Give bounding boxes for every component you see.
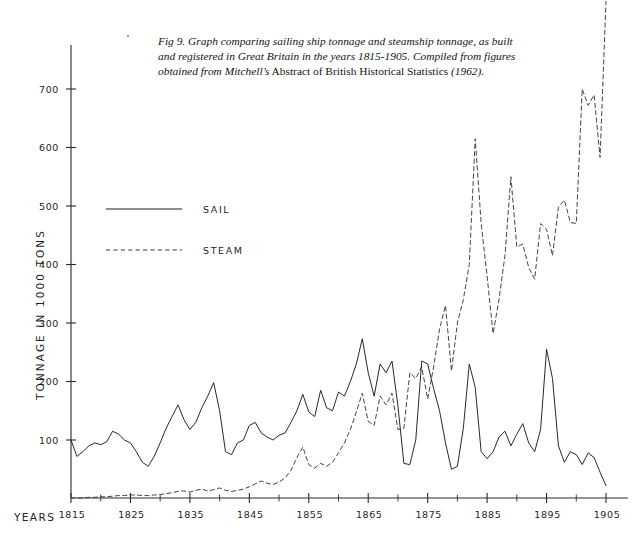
y-tick-label-700: 700 xyxy=(39,84,59,95)
y-axis-title: TONNAGE IN 1000 TONS xyxy=(34,229,46,401)
chart-legend: SAIL STEAM xyxy=(106,204,244,256)
x-tick-label-1895: 1895 xyxy=(534,509,561,520)
series-line-sail xyxy=(71,339,606,486)
y-tick-label-500: 500 xyxy=(39,201,59,212)
x-tick-label-1835: 1835 xyxy=(178,509,205,520)
chart-plot-area: 100200300400500600700 181518251835184518… xyxy=(0,0,637,546)
x-tick-label-1885: 1885 xyxy=(475,509,502,520)
figure-container: Fig 9. Graph comparing sailing ship tonn… xyxy=(0,0,637,546)
x-tick-label-1905: 1905 xyxy=(594,509,621,520)
x-tick-label-1815: 1815 xyxy=(59,509,86,520)
x-tick-label-1875: 1875 xyxy=(415,509,442,520)
x-axis-tick-labels: 1815182518351845185518651875188518951905 xyxy=(59,509,621,520)
x-tick-label-1855: 1855 xyxy=(296,509,323,520)
x-tick-label-1865: 1865 xyxy=(356,509,383,520)
y-tick-label-100: 100 xyxy=(39,435,59,446)
legend-label-sail: SAIL xyxy=(203,204,230,215)
scan-speck xyxy=(127,35,129,37)
y-tick-label-600: 600 xyxy=(39,142,59,153)
x-axis-title: YEARS xyxy=(13,511,55,523)
x-tick-label-1845: 1845 xyxy=(237,509,264,520)
x-tick-label-1825: 1825 xyxy=(118,509,145,520)
legend-label-steam: STEAM xyxy=(203,245,244,256)
